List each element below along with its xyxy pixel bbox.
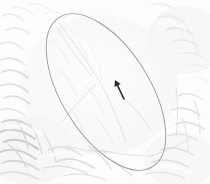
direction-vector-marker[interactable] bbox=[114, 80, 124, 99]
map-figure[interactable] bbox=[0, 0, 210, 184]
arrow-shaft bbox=[117, 84, 124, 99]
vector-marker-layer[interactable] bbox=[0, 0, 210, 184]
